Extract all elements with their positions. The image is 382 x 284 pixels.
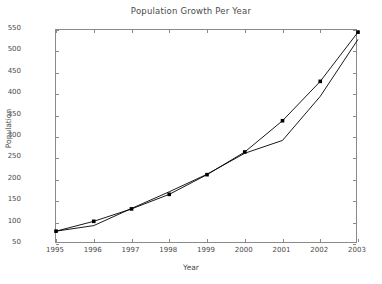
x-tick-label: 1998 (148, 247, 188, 254)
x-tick-label: 1996 (73, 247, 113, 254)
x-tick-label: 2002 (299, 247, 339, 254)
y-tick-label: 300 (0, 132, 21, 139)
y-tick-mark-right (353, 244, 356, 245)
y-tick-label: 200 (0, 175, 21, 182)
series-line-1 (56, 39, 358, 231)
y-tick-label: 400 (0, 89, 21, 96)
series-line-0 (56, 32, 358, 231)
y-tick-label: 500 (0, 46, 21, 53)
data-point-marker (167, 193, 171, 197)
x-tick-label: 2001 (262, 247, 302, 254)
chart-figure: Population Growth Per Year Population Ye… (0, 0, 382, 284)
y-tick-label: 250 (0, 153, 21, 160)
x-tick-mark (358, 239, 359, 242)
x-axis-label: Year (0, 263, 382, 272)
data-series-layer (56, 30, 358, 244)
x-tick-label: 1995 (35, 247, 75, 254)
chart-title: Population Growth Per Year (0, 6, 382, 16)
data-point-marker (92, 220, 96, 224)
plot-area (55, 29, 357, 243)
y-tick-label: 350 (0, 111, 21, 118)
y-tick-mark (56, 244, 59, 245)
y-tick-label: 100 (0, 218, 21, 225)
x-tick-label: 1999 (186, 247, 226, 254)
data-point-marker (318, 80, 322, 84)
data-point-marker (281, 119, 285, 123)
y-axis-label: Population (4, 97, 13, 161)
y-tick-label: 150 (0, 196, 21, 203)
y-tick-label: 50 (0, 239, 21, 246)
y-tick-label: 450 (0, 68, 21, 75)
x-tick-label: 2000 (224, 247, 264, 254)
y-tick-label: 550 (0, 25, 21, 32)
data-point-marker (356, 30, 360, 34)
x-tick-label: 1997 (111, 247, 151, 254)
x-tick-label: 2003 (337, 247, 377, 254)
